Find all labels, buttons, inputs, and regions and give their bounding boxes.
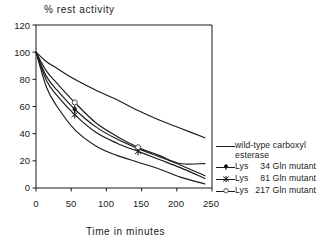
legend-label-lys81-suffix: Gln mutant [273,173,317,183]
legend-key-open-circle-icon [216,186,235,196]
data-markers [72,100,142,155]
legend-key-line-icon [216,141,235,151]
legend-label-lys34-number: 34 [251,161,270,171]
legend: wild-type carboxyl esterase Lys 34 Gln m… [216,140,335,197]
legend-label-lys81-prefix: Lys [235,173,249,183]
legend-label-lys217-suffix: Gln mutant [273,185,317,195]
legend-label-wild-type-line1: wild-type carboxyl [235,140,306,150]
legend-label-lys34-suffix: Gln mutant [273,161,317,171]
legend-key-filled-plus-dot-icon [216,162,235,172]
legend-label-lys81-number: 81 [251,173,270,183]
legend-item-lys217[interactable]: Lys 217 Gln mutant [216,185,335,196]
x-tick-marks [36,188,212,192]
legend-item-wild-type[interactable]: wild-type carboxyl esterase [216,140,335,160]
legend-label-lys217-prefix: Lys [235,185,249,195]
legend-label-lys217-number: 217 [251,185,270,195]
data-curves [36,52,205,184]
legend-label-lys34-prefix: Lys [235,161,249,171]
legend-item-lys81[interactable]: Lys 81 Gln mutant [216,173,335,184]
chart-figure: % rest activity 120 100 80 60 40 20 0 0 … [0,0,335,246]
legend-key-asterisk-icon [216,174,235,184]
plot-area [0,0,335,246]
legend-label-wild-type-line2: esterase [235,150,306,160]
y-tick-marks [33,25,37,188]
legend-item-lys34[interactable]: Lys 34 Gln mutant [216,161,335,172]
